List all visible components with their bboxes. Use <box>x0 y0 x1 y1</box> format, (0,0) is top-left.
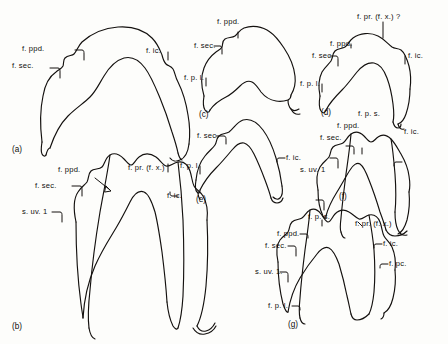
label-e-f-ic: f. ic. <box>286 154 301 162</box>
label-c-f-ppd: f. ppd. <box>217 18 239 26</box>
label-c-f-sec: f. sec. <box>194 42 216 50</box>
panel-id-e: (e) <box>196 195 206 204</box>
panel-b-outline <box>52 154 216 339</box>
label-f-f-ps: f. p. s. <box>358 110 380 118</box>
label-g-f-ps: f. p. s. <box>308 213 330 221</box>
panel-id-a: (a) <box>12 145 22 154</box>
label-b-s-uv: s. uv. 1 <box>22 208 47 216</box>
label-a-f-sec: f. sec. <box>12 62 34 70</box>
figure-canvas: f. ppd. f. sec. f. ic. (a) f. ppd. f. pr… <box>0 0 448 344</box>
label-g-f-pr: f. pr. (f. x.) <box>355 220 392 228</box>
label-a-f-ppd: f. ppd. <box>22 45 44 53</box>
label-g-f-pc: f. pc. <box>389 260 407 268</box>
panel-id-g: (g) <box>288 320 298 329</box>
label-b-f-pr: f. pr. (f. x.) <box>128 164 165 172</box>
panel-a-outline <box>41 27 190 161</box>
label-f-f-ppd: f. ppd. <box>337 122 359 130</box>
label-e-f-sec: f. sec. <box>197 132 219 140</box>
label-d-f-ic: f. ic. <box>408 52 423 60</box>
panel-id-b: (b) <box>12 322 22 331</box>
label-b-f-sec: f. sec. <box>35 182 57 190</box>
label-b-f-ic: f. ic. <box>167 192 182 200</box>
label-d-f-pr: f. pr. (f. x.) ? <box>357 13 400 21</box>
panel-id-d: (d) <box>321 108 331 117</box>
panel-c-outline <box>202 26 300 114</box>
label-b-f-ppd: f. ppd. <box>58 166 80 174</box>
label-g-s-uv: s. uv. 1. <box>255 268 283 276</box>
panel-id-f: (f) <box>339 192 347 201</box>
label-g-f-pl: f. p. l. <box>268 302 288 310</box>
label-d-f-sec: f. sec. <box>312 52 334 60</box>
label-d-f-ppd: f. ppd. <box>330 40 352 48</box>
label-a-f-ic: f. ic. <box>146 47 161 55</box>
label-c-f-pl: f. p. l. <box>184 74 204 82</box>
panel-id-c: (c) <box>199 110 209 119</box>
label-g-f-ppd: f. ppd. <box>277 230 299 238</box>
label-e-f-pl: f. p. l. <box>180 162 200 170</box>
label-d-f-pl: f. p. l. <box>300 80 320 88</box>
label-g-f-ic: f. ic. <box>383 240 398 248</box>
label-f-s-uv: s. uv. 1 <box>300 166 325 174</box>
label-g-f-sec: f. sec. <box>265 242 287 250</box>
label-f-f-ic: f. ic. <box>404 128 419 136</box>
label-f-f-sec: f. sec. <box>320 134 342 142</box>
